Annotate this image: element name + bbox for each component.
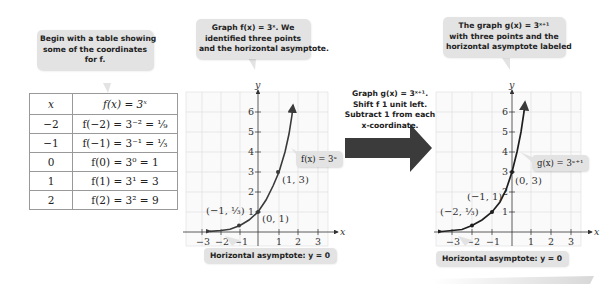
note-line: x-coordinate. [340,121,440,132]
point-label: (−1, ⅓) [206,205,245,216]
svg-text:5: 5 [248,126,254,137]
svg-text:6: 6 [248,106,254,117]
decorative-shadow [432,276,594,284]
point-marker [256,210,260,214]
svg-text:1: 1 [276,236,282,247]
svg-text:3: 3 [502,166,508,177]
callout-line: horizontal asymptote labeled [446,42,562,53]
svg-text:4: 4 [502,146,508,157]
point-marker [276,170,280,174]
note-line: Graph g(x) = 3ˣ⁺¹. [340,89,440,100]
point-label: (−2, ⅓) [440,206,479,217]
svg-text:1: 1 [502,206,508,217]
asymptote-label: Horizontal asymptote: y = 0 [436,251,568,266]
callout-pointer [248,58,256,70]
point-label: (0, 1) [262,213,289,224]
note-line: Shift f 1 unit left. [340,100,440,111]
point-label: (−1, 1) [467,191,502,202]
y-axis-label: y [508,79,515,90]
callout-pointer [502,58,510,70]
point-marker [470,224,474,228]
callout-line: and the horizontal asymptote. [199,44,307,55]
callout-line: identified three points [199,34,307,45]
transform-arrow-icon [345,124,432,172]
callout-pointer [103,83,111,93]
callout-line: The graph g(x) = 3ˣ⁺¹ [446,21,562,32]
svg-text:1: 1 [528,236,534,247]
svg-text:−1: −1 [486,236,500,247]
svg-text:−3: −3 [196,236,210,247]
svg-text:2: 2 [295,236,301,247]
note-line: Subtract 1 from each [340,110,440,121]
x-axis-label: x [594,226,600,237]
svg-text:2: 2 [248,186,254,197]
point-label: (1, 3) [282,174,309,185]
callout-line: Graph f(x) = 3ˣ. We [199,23,307,34]
function-label-g: g(x) = 3ˣ⁺¹ [532,155,588,171]
point-label: (0, 3) [515,175,542,186]
svg-text:5: 5 [502,126,508,137]
svg-text:3: 3 [568,236,574,247]
point-marker [237,224,241,228]
svg-text:6: 6 [502,106,508,117]
point-marker [510,170,514,174]
svg-text:3: 3 [248,166,254,177]
y-axis-label: y [254,79,261,90]
svg-text:2: 2 [548,236,554,247]
callout-line: with three points and the [446,32,562,43]
asymptote-label: Horizontal asymptote: y = 0 [204,248,336,263]
transformation-note: Graph g(x) = 3ˣ⁺¹. Shift f 1 unit left. … [340,89,440,131]
svg-text:3: 3 [315,236,321,247]
point-marker [490,210,494,214]
svg-text:−3: −3 [446,236,460,247]
svg-text:4: 4 [248,146,254,157]
graph1-callout: Graph f(x) = 3ˣ. We identified three poi… [196,19,310,59]
x-axis-label: x [340,226,346,237]
function-label-f: f(x) = 3ˣ [296,151,342,167]
graph2-callout: The graph g(x) = 3ˣ⁺¹ with three points … [443,17,565,57]
